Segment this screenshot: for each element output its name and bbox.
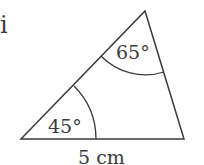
angle-label-top: 65° — [116, 41, 150, 63]
angle-label-bottom-left: 45° — [48, 115, 82, 137]
base-length-label: 5 cm — [78, 146, 125, 165]
triangle — [21, 11, 184, 139]
part-label: i — [0, 11, 8, 39]
triangle-diagram: i 45° 65° 5 cm — [0, 0, 204, 165]
